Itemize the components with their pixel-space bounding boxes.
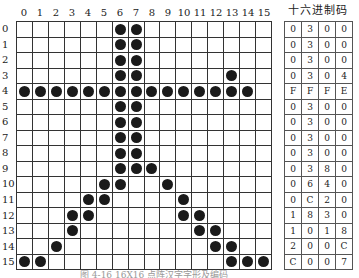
hex-digit: 0: [302, 254, 319, 270]
grid-cell: [129, 100, 145, 116]
grid-cell: [160, 177, 176, 193]
grid-cell: [224, 115, 240, 131]
grid-cell: [113, 146, 129, 162]
grid-cell: [145, 53, 161, 69]
grid-cell: [176, 22, 192, 38]
hex-row: 1018: [285, 223, 353, 239]
row-label: 11: [0, 192, 16, 208]
hex-digit: 0: [285, 115, 302, 131]
grid-cell: [256, 38, 272, 54]
filled-dot-icon: [115, 148, 126, 159]
grid-cell: [224, 100, 240, 116]
filled-dot-icon: [258, 256, 269, 267]
hex-digit: 8: [302, 208, 319, 224]
grid-cell: [33, 162, 49, 178]
grid-cell: [81, 162, 97, 178]
grid-cell: [256, 100, 272, 116]
grid-cell: [208, 177, 224, 193]
hex-digit: 8: [336, 223, 353, 239]
grid-cell: [160, 22, 176, 38]
grid-cell: [256, 208, 272, 224]
filled-dot-icon: [131, 70, 142, 81]
grid-cell: [97, 177, 113, 193]
grid-cell: [192, 100, 208, 116]
grid-cell: [176, 38, 192, 54]
grid-cell: [240, 100, 256, 116]
filled-dot-icon: [226, 86, 237, 97]
grid-cell: [33, 146, 49, 162]
hex-digit: 3: [302, 37, 319, 53]
row-label: 5: [0, 99, 16, 115]
filled-dot-icon: [162, 179, 173, 190]
filled-dot-icon: [115, 55, 126, 66]
grid-cell: [65, 100, 81, 116]
grid-cell: [49, 38, 65, 54]
filled-dot-icon: [210, 241, 221, 252]
filled-dot-icon: [242, 256, 253, 267]
hex-digit: 0: [336, 161, 353, 177]
grid-cell: [160, 84, 176, 100]
hex-digit: 3: [302, 161, 319, 177]
row-label: 15: [0, 254, 16, 270]
grid-cell: [224, 22, 240, 38]
hex-row: 0640: [285, 177, 353, 193]
grid-cell: [17, 53, 33, 69]
grid-cell: [129, 53, 145, 69]
grid-cell: [33, 208, 49, 224]
hex-digit: C: [302, 192, 319, 208]
row-label: 9: [0, 161, 16, 177]
filled-dot-icon: [178, 86, 189, 97]
hex-digit: 0: [319, 68, 336, 84]
hex-row: 0300: [285, 53, 353, 69]
grid-cell: [33, 177, 49, 193]
hex-digit: 0: [336, 177, 353, 193]
grid-cell: [97, 146, 113, 162]
hex-digit: 0: [302, 223, 319, 239]
grid-cell: [192, 208, 208, 224]
grid-cell: [113, 162, 129, 178]
row-label: 0: [0, 21, 16, 37]
grid-cell: [81, 69, 97, 85]
grid-cell: [256, 53, 272, 69]
grid-cell: [49, 100, 65, 116]
grid-cell: [17, 84, 33, 100]
hex-digit: 0: [336, 22, 353, 38]
grid-cell: [145, 177, 161, 193]
grid-cell: [49, 131, 65, 147]
hex-row: 0380: [285, 161, 353, 177]
grid-cell: [145, 193, 161, 209]
grid-cell: [145, 38, 161, 54]
grid-cell: [65, 53, 81, 69]
hex-digit: 1: [285, 208, 302, 224]
hex-digit: 0: [285, 192, 302, 208]
grid-cell: [256, 131, 272, 147]
filled-dot-icon: [146, 86, 157, 97]
grid-cell: [240, 193, 256, 209]
hex-digit: 0: [336, 99, 353, 115]
filled-dot-icon: [83, 194, 94, 205]
grid-cell: [113, 131, 129, 147]
hex-digit: 0: [285, 53, 302, 69]
filled-dot-icon: [131, 148, 142, 159]
hex-digit: 0: [319, 146, 336, 162]
filled-dot-icon: [131, 101, 142, 112]
grid-cell: [145, 208, 161, 224]
row-labels: 0123456789101112131415: [0, 21, 16, 270]
grid-cell: [192, 22, 208, 38]
grid-cell: [160, 193, 176, 209]
grid-cell: [224, 38, 240, 54]
grid-cell: [97, 100, 113, 116]
grid-cell: [240, 239, 256, 255]
hex-code-title: 十六进制码: [283, 4, 353, 18]
grid-cell: [33, 22, 49, 38]
grid-cell: [145, 115, 161, 131]
hex-digit: 0: [319, 53, 336, 69]
grid-cell: [49, 146, 65, 162]
row-label: 7: [0, 130, 16, 146]
grid-cell: [113, 53, 129, 69]
hex-digit: F: [285, 84, 302, 100]
filled-dot-icon: [115, 86, 126, 97]
filled-dot-icon: [131, 55, 142, 66]
hex-row: 0300: [285, 99, 353, 115]
hex-digit: 0: [336, 115, 353, 131]
